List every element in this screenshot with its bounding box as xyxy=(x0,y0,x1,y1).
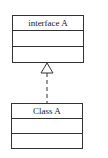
class-a-box: Class A xyxy=(11,103,83,149)
class-a-operations xyxy=(12,134,82,148)
class-a-attributes xyxy=(12,119,82,134)
hollow-triangle-arrowhead-icon xyxy=(41,63,53,73)
class-a-name: Class A xyxy=(12,104,82,119)
